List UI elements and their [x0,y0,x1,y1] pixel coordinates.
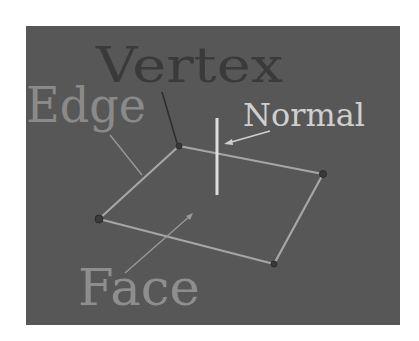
normal-arrowhead-icon [224,139,233,145]
mesh-diagram: Vertex Edge Normal Face [0,0,419,341]
face-label: Face [78,259,200,317]
edge-leader-line [110,135,142,175]
vertex-left-dot [95,215,103,223]
vertex-right-dot [320,171,327,178]
normal-label: Normal [243,96,365,134]
vertex-top-dot [176,143,182,149]
edge-label: Edge [26,77,146,133]
vertex-bottom-dot [271,261,277,267]
vertex-leader-line [162,92,177,143]
